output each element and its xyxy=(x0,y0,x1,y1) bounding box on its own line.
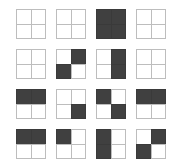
tile-r2c2-quadrant-bottom-right xyxy=(71,64,86,79)
tile-r4c3-quadrant-top-left xyxy=(96,129,111,144)
grid-container xyxy=(0,0,174,166)
tile-r3c1-quadrant-bottom-right xyxy=(31,104,46,119)
tile-r4c1-quadrant-bottom-right xyxy=(31,144,46,159)
tile-r2c3[interactable] xyxy=(96,49,126,79)
tile-r4c1-quadrant-bottom-left xyxy=(16,144,31,159)
tile-r4c3-quadrant-bottom-right xyxy=(111,144,126,159)
tile-r3c3-quadrant-bottom-left xyxy=(96,104,111,119)
tile-r4c4-quadrant-bottom-left xyxy=(136,144,151,159)
tile-r4c1[interactable] xyxy=(16,129,46,159)
tile-r2c2-quadrant-bottom-left xyxy=(56,64,71,79)
tile-r4c2-quadrant-top-right xyxy=(71,129,86,144)
tile-r3c1-quadrant-top-right xyxy=(31,89,46,104)
tile-r2c1-quadrant-bottom-right xyxy=(31,64,46,79)
tile-r2c3-quadrant-bottom-left xyxy=(96,64,111,79)
tile-r2c1-quadrant-top-left xyxy=(16,49,31,64)
tile-r4c3-quadrant-bottom-left xyxy=(96,144,111,159)
tile-r1c3-quadrant-bottom-left xyxy=(96,24,111,39)
tile-r1c4[interactable] xyxy=(136,9,166,39)
tile-r3c2-quadrant-top-left xyxy=(56,89,71,104)
tile-r1c1[interactable] xyxy=(16,9,46,39)
tile-r1c2-quadrant-top-left xyxy=(56,9,71,24)
tile-r2c4-quadrant-top-left xyxy=(136,49,151,64)
tile-r1c2-quadrant-bottom-left xyxy=(56,24,71,39)
tile-r1c4-quadrant-top-left xyxy=(136,9,151,24)
tile-r3c4-quadrant-bottom-right xyxy=(151,104,166,119)
tile-r2c1-quadrant-bottom-left xyxy=(16,64,31,79)
tile-r4c2-quadrant-bottom-right xyxy=(71,144,86,159)
tile-r3c4-quadrant-top-left xyxy=(136,89,151,104)
tile-r3c4-quadrant-top-right xyxy=(151,89,166,104)
tile-r4c2[interactable] xyxy=(56,129,86,159)
tile-r3c1-quadrant-top-left xyxy=(16,89,31,104)
tile-grid xyxy=(16,9,166,159)
tile-r1c4-quadrant-bottom-right xyxy=(151,24,166,39)
tile-r2c2-quadrant-top-right xyxy=(71,49,86,64)
tile-r1c2[interactable] xyxy=(56,9,86,39)
tile-r2c1-quadrant-top-right xyxy=(31,49,46,64)
tile-r1c1-quadrant-top-left xyxy=(16,9,31,24)
tile-r1c3-quadrant-top-left xyxy=(96,9,111,24)
tile-r1c2-quadrant-bottom-right xyxy=(71,24,86,39)
tile-r2c3-quadrant-top-right xyxy=(111,49,126,64)
tile-r3c2-quadrant-bottom-left xyxy=(56,104,71,119)
tile-r2c3-quadrant-bottom-right xyxy=(111,64,126,79)
tile-r3c4-quadrant-bottom-left xyxy=(136,104,151,119)
tile-r1c3[interactable] xyxy=(96,9,126,39)
tile-r3c4[interactable] xyxy=(136,89,166,119)
tile-r4c4-quadrant-top-right xyxy=(151,129,166,144)
tile-r4c2-quadrant-top-left xyxy=(56,129,71,144)
tile-r2c3-quadrant-top-left xyxy=(96,49,111,64)
tile-r2c4-quadrant-bottom-right xyxy=(151,64,166,79)
tile-r1c2-quadrant-top-right xyxy=(71,9,86,24)
tile-r4c2-quadrant-bottom-left xyxy=(56,144,71,159)
tile-r3c3-quadrant-bottom-right xyxy=(111,104,126,119)
tile-r1c3-quadrant-bottom-right xyxy=(111,24,126,39)
tile-r1c1-quadrant-bottom-left xyxy=(16,24,31,39)
tile-r1c4-quadrant-top-right xyxy=(151,9,166,24)
tile-r3c3[interactable] xyxy=(96,89,126,119)
tile-r1c4-quadrant-bottom-left xyxy=(136,24,151,39)
tile-r3c2-quadrant-bottom-right xyxy=(71,104,86,119)
tile-r4c4[interactable] xyxy=(136,129,166,159)
tile-r4c1-quadrant-top-right xyxy=(31,129,46,144)
tile-r1c1-quadrant-top-right xyxy=(31,9,46,24)
tile-r4c4-quadrant-bottom-right xyxy=(151,144,166,159)
tile-r1c1-quadrant-bottom-right xyxy=(31,24,46,39)
tile-r2c4-quadrant-bottom-left xyxy=(136,64,151,79)
tile-r3c2-quadrant-top-right xyxy=(71,89,86,104)
tile-r3c3-quadrant-top-left xyxy=(96,89,111,104)
tile-r2c2-quadrant-top-left xyxy=(56,49,71,64)
tile-r4c1-quadrant-top-left xyxy=(16,129,31,144)
tile-r3c1[interactable] xyxy=(16,89,46,119)
tile-r2c4[interactable] xyxy=(136,49,166,79)
tile-r1c3-quadrant-top-right xyxy=(111,9,126,24)
tile-r2c1[interactable] xyxy=(16,49,46,79)
tile-r2c4-quadrant-top-right xyxy=(151,49,166,64)
tile-r4c3-quadrant-top-right xyxy=(111,129,126,144)
tile-r3c2[interactable] xyxy=(56,89,86,119)
tile-r4c3[interactable] xyxy=(96,129,126,159)
tile-r4c4-quadrant-top-left xyxy=(136,129,151,144)
tile-r3c1-quadrant-bottom-left xyxy=(16,104,31,119)
tile-r2c2[interactable] xyxy=(56,49,86,79)
tile-r3c3-quadrant-top-right xyxy=(111,89,126,104)
